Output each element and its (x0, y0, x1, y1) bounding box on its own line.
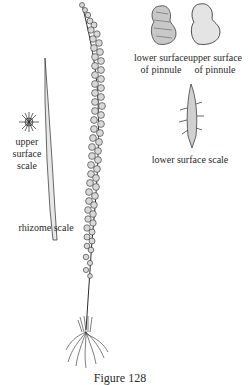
label-line: surface (6, 148, 48, 160)
label-lower-surface-scale: lower surface scale (145, 154, 235, 166)
lower-surface-scale-drawing (179, 84, 204, 148)
lower-pinnule-drawing (151, 6, 176, 45)
roots (66, 316, 108, 368)
label-line: scale (6, 160, 48, 172)
upper-pinnule-drawing (191, 4, 220, 45)
label-rhizome-scale: rhizome scale (14, 222, 78, 234)
upper-surface-scale-drawing (19, 112, 39, 132)
label-line: upper surface (182, 52, 248, 64)
label-line: upper (6, 136, 48, 148)
figure-caption: Figure 128 (70, 372, 170, 384)
label-upper-surface-scale: upper surface scale (6, 136, 48, 172)
label-upper-surface-of-pinnule: upper surface of pinnule (182, 52, 248, 76)
label-line: of pinnule (182, 64, 248, 76)
